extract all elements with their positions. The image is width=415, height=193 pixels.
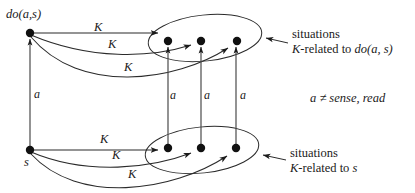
callout-top-line2: K-related to do(a, s): [292, 43, 393, 56]
callout-bottom-rel: -related to: [298, 161, 352, 175]
ellipse-top-situations: [146, 9, 264, 67]
callout-leader-top: [266, 38, 288, 43]
a-label-source: a: [34, 88, 40, 101]
action-condition-text: a ≠ sense, read: [310, 92, 385, 105]
callout-leader-bottom: [263, 155, 286, 160]
node-bottom-3: [232, 144, 240, 152]
k-label-bottom-3: K: [128, 168, 136, 181]
node-bottom-2: [197, 144, 205, 152]
callout-top: situations K-related to do(a, s): [292, 28, 393, 56]
callout-bottom: situations K-related to s: [290, 147, 357, 175]
k-label-bottom-2: K: [112, 149, 120, 162]
node-label-s: s: [24, 156, 29, 169]
node-top-1: [164, 37, 172, 45]
node-label-do-a-s: do(a,s): [6, 8, 41, 21]
node-top-3: [233, 37, 241, 45]
a-label-1: a: [170, 89, 176, 102]
nodes-bottom: [26, 144, 240, 154]
k-label-bottom-1: K: [100, 133, 108, 146]
node-do-a-s: [26, 29, 34, 37]
knowledge-accessibility-diagram: do(a,s) s K K K K K K a a a a a ≠ sense,…: [0, 0, 415, 193]
node-s: [26, 146, 34, 154]
nodes-top: [26, 29, 241, 45]
callout-top-line1: situations: [292, 28, 393, 41]
a-label-2: a: [204, 89, 210, 102]
callout-bottom-line2: K-related to s: [290, 162, 357, 175]
k-edge-bottom-2: [31, 152, 191, 167]
k-label-top-3: K: [124, 61, 132, 74]
callout-leader-lines: [263, 38, 288, 160]
k-label-top-1: K: [94, 21, 102, 34]
callout-top-term: do(a, s): [354, 42, 392, 56]
a-label-3: a: [240, 89, 246, 102]
callout-top-rel: -related to: [300, 42, 354, 56]
ellipse-group-top: [146, 9, 264, 67]
k-label-top-2: K: [108, 38, 116, 51]
node-top-2: [197, 37, 205, 45]
callout-bottom-term: s: [352, 161, 357, 175]
callout-bottom-line1: situations: [290, 147, 357, 160]
node-bottom-1: [164, 144, 172, 152]
